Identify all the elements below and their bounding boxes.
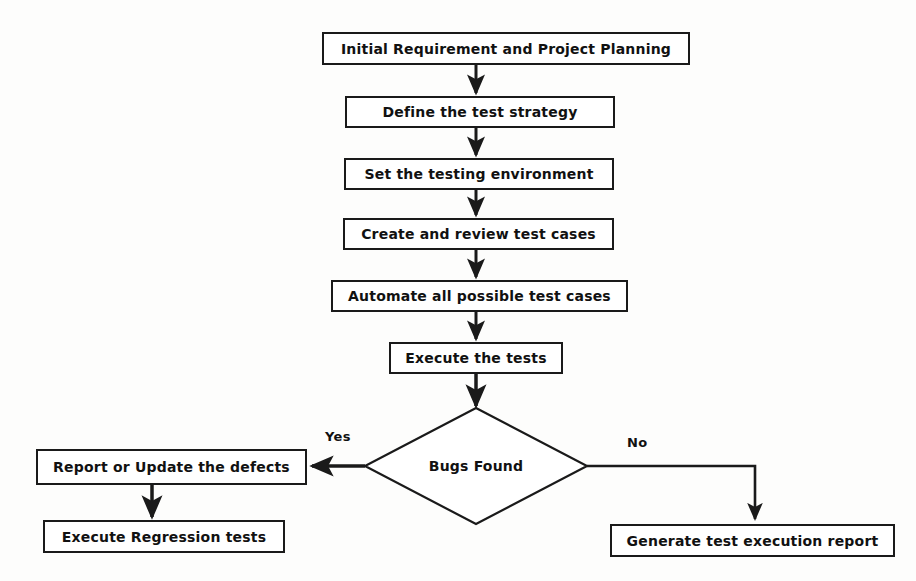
flowchart-canvas: Initial Requirement and Project Planning… (0, 0, 916, 581)
node-execute-regression-tests[interactable]: Execute Regression tests (43, 520, 285, 553)
decision-diamond-bugs-found (365, 408, 587, 524)
connector-no-to-generate-report (587, 466, 755, 519)
node-label-report-update-defects: Report or Update the defects (53, 460, 290, 474)
node-automate-test-cases[interactable]: Automate all possible test cases (331, 280, 628, 312)
node-label-automate-test-cases: Automate all possible test cases (348, 289, 611, 303)
node-label-initial-requirement: Initial Requirement and Project Planning (341, 42, 671, 56)
edge-label-no: No (627, 435, 647, 450)
node-label-set-testing-environment: Set the testing environment (364, 167, 593, 181)
node-generate-test-report[interactable]: Generate test execution report (610, 524, 895, 557)
node-create-review-test-cases[interactable]: Create and review test cases (343, 218, 614, 250)
node-set-testing-environment[interactable]: Set the testing environment (344, 158, 614, 190)
node-label-execute-regression-tests: Execute Regression tests (62, 530, 266, 544)
node-label-create-review-test-cases: Create and review test cases (361, 227, 596, 241)
node-report-update-defects[interactable]: Report or Update the defects (36, 449, 307, 485)
edge-label-yes: Yes (325, 429, 351, 444)
node-label-define-test-strategy: Define the test strategy (383, 105, 578, 119)
node-execute-the-tests[interactable]: Execute the tests (389, 342, 563, 374)
node-define-test-strategy[interactable]: Define the test strategy (345, 96, 615, 128)
node-initial-requirement[interactable]: Initial Requirement and Project Planning (322, 32, 690, 65)
node-label-execute-the-tests: Execute the tests (405, 351, 546, 365)
node-label-generate-test-report: Generate test execution report (627, 534, 879, 548)
